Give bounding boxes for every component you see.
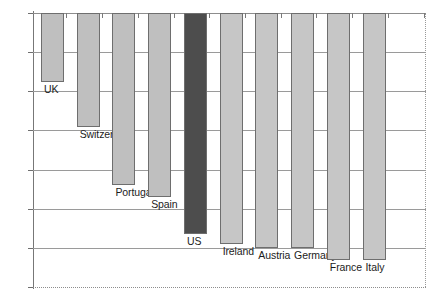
bar-portugal[interactable] (112, 13, 135, 185)
x-axis-tick (281, 13, 282, 18)
bar-label-austria: Austria (258, 249, 290, 261)
bar-france[interactable] (327, 13, 350, 260)
bar-italy[interactable] (363, 13, 386, 260)
x-axis-tick (424, 13, 425, 18)
bar-austria[interactable] (255, 13, 278, 248)
y-axis-tick (28, 130, 33, 131)
x-axis-tick (352, 13, 353, 18)
x-axis-tick (388, 13, 389, 18)
bar-spain[interactable] (148, 13, 171, 197)
x-axis-tick (66, 13, 67, 18)
x-axis-tick (245, 13, 246, 18)
x-axis-tick (209, 13, 210, 18)
bar-uk[interactable] (41, 13, 64, 82)
bar-label-italy: Italy (366, 261, 385, 273)
y-axis-tick (28, 170, 33, 171)
bar-label-uk: UK (44, 83, 58, 95)
bottom-axis-line (33, 287, 426, 288)
x-axis-tick (102, 13, 103, 18)
x-axis-tick (174, 13, 175, 18)
chart-title (0, 0, 431, 8)
y-axis-tick (28, 91, 33, 92)
y-axis-tick (28, 52, 33, 53)
y-axis-tick (28, 209, 33, 210)
bar-ireland[interactable] (220, 13, 243, 244)
bar-us[interactable] (184, 13, 207, 234)
bar-label-us: US (187, 235, 201, 247)
bar-germany[interactable] (291, 13, 314, 248)
bar-label-spain: Spain (151, 198, 177, 210)
y-axis-tick (28, 248, 33, 249)
y-axis-tick (28, 13, 33, 14)
bar-label-france: France (330, 261, 362, 273)
bar-label-ireland: Ireland (223, 245, 254, 257)
bar-switzerland[interactable] (77, 13, 100, 127)
x-axis-tick (316, 13, 317, 18)
bar-chart: -2-2.5-3-3.5-4-4.5-5-5.5 UKSwitzerlandPo… (0, 0, 431, 300)
y-axis-tick (28, 287, 33, 288)
plot-area: UKSwitzerlandPortugalSpainUSIrelandAustr… (33, 13, 426, 287)
x-axis-tick (138, 13, 139, 18)
